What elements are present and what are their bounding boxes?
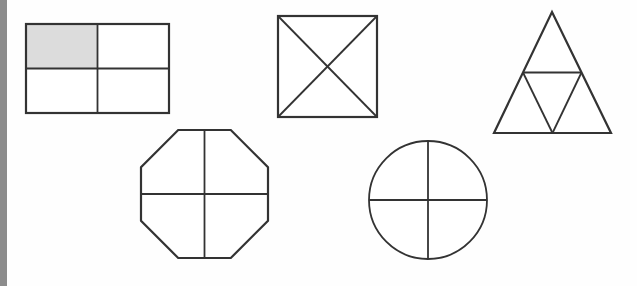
rectangle-cell-top-left[interactable] xyxy=(26,24,98,69)
figure-rectangle[interactable] xyxy=(26,24,169,113)
figure-octagon[interactable] xyxy=(141,130,268,258)
rectangle-cell-bottom-left[interactable] xyxy=(26,69,98,114)
figure-canvas xyxy=(0,0,637,286)
rectangle-cell-top-right[interactable] xyxy=(98,24,170,69)
figure-square-diagonals[interactable] xyxy=(278,16,377,117)
figure-triangle[interactable] xyxy=(494,12,611,133)
worksheet-page xyxy=(0,0,637,286)
rectangle-cell-bottom-right[interactable] xyxy=(98,69,170,114)
figure-circle[interactable] xyxy=(369,141,487,259)
